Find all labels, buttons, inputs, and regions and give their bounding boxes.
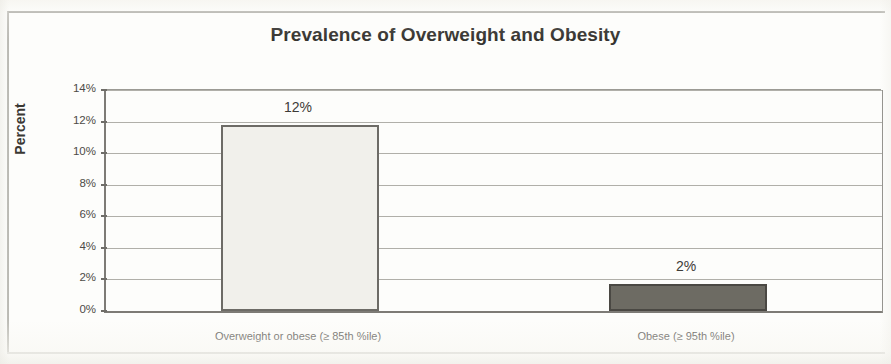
gridline (106, 90, 882, 91)
x-axis-category-label: Overweight or obese (≥ 85th %ile) (104, 330, 492, 342)
y-axis-tick-label: 2% (48, 271, 96, 283)
gridline (106, 122, 882, 123)
page-bottom-rule (7, 352, 885, 354)
bar-value-label: 12% (219, 99, 377, 115)
y-axis-tick-mark (101, 310, 107, 312)
plot-area (104, 90, 883, 313)
y-axis-tick-label: 0% (48, 303, 96, 315)
bar[interactable] (221, 125, 379, 311)
y-axis-tick-label: 6% (48, 208, 96, 220)
chart-title: Prevalence of Overweight and Obesity (0, 24, 891, 46)
y-axis-title: Percent (12, 69, 28, 189)
y-axis-tick-label: 14% (48, 82, 96, 94)
bar[interactable] (609, 284, 767, 311)
y-axis-tick-label: 10% (48, 145, 96, 157)
y-axis-tick-label: 4% (48, 240, 96, 252)
y-axis-tick-label: 8% (48, 177, 96, 189)
y-axis-tick-mark (101, 152, 107, 154)
y-axis-tick-mark (101, 121, 107, 123)
y-axis-tick-mark (101, 184, 107, 186)
y-axis-tick-mark (101, 278, 107, 280)
scan-edge-smudge (0, 4, 891, 8)
x-axis-category-label: Obese (≥ 95th %ile) (492, 330, 880, 342)
bar-value-label: 2% (607, 258, 765, 274)
y-axis-tick-mark (101, 215, 107, 217)
y-axis-tick-mark (101, 247, 107, 249)
y-axis-tick-label: 12% (48, 114, 96, 126)
y-axis-tick-mark (101, 89, 107, 91)
chart-screenshot: Prevalence of Overweight and Obesity Per… (0, 0, 891, 364)
